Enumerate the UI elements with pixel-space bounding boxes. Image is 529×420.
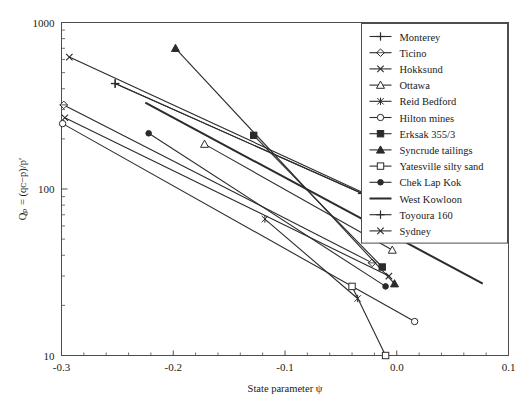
legend-label: Hokksund (400, 64, 444, 75)
x-tick-label: -0.3 (53, 361, 71, 373)
legend-marker (377, 163, 383, 169)
series-toyoura-160 (111, 79, 366, 197)
series-marker (171, 44, 179, 51)
legend-label: Monterey (400, 32, 442, 43)
series-reid-bedford (262, 215, 361, 302)
y-tick-label: 100 (38, 183, 55, 195)
series-line (352, 286, 386, 355)
legend-label: Yatesville silty sand (400, 161, 485, 172)
series-marker (379, 264, 385, 270)
series-line (65, 118, 389, 276)
series-line (115, 84, 362, 194)
x-tick-label: 0.1 (502, 361, 516, 373)
legend-label: Hilton mines (400, 113, 455, 124)
series-marker (59, 120, 65, 126)
legend-label: Ottawa (400, 80, 431, 91)
legend-label: Reid Bedford (400, 96, 458, 107)
chart-figure: MontereyTicinoHokksundOttawaReid Bedford… (0, 0, 529, 420)
legend-label: Sydney (400, 226, 432, 237)
legend-marker (377, 131, 383, 137)
x-tick-label: -0.1 (276, 361, 293, 373)
series-line (64, 105, 372, 263)
series-marker (411, 318, 417, 324)
y-tick-label: 1000 (33, 17, 56, 29)
legend-label: West Kowloon (400, 194, 463, 205)
legend-label: Ticino (400, 48, 427, 59)
legend-label: Toyoura 160 (400, 210, 453, 221)
legend-label: Erksak 355/3 (400, 129, 456, 140)
series-marker (349, 283, 355, 289)
chart-svg: MontereyTicinoHokksundOttawaReid Bedford… (0, 0, 529, 420)
series-marker (146, 131, 152, 137)
y-axis-title: Qₚ = (qᴄ−p)/p′ (17, 158, 29, 221)
x-axis-title: State parameter ψ (248, 383, 323, 394)
legend-layer: MontereyTicinoHokksundOttawaReid Bedford… (362, 24, 508, 244)
series-marker (201, 140, 209, 147)
series-yatesville-silty-sand (349, 283, 389, 358)
x-tick-label: -0.2 (165, 361, 182, 373)
legend-marker (377, 114, 383, 120)
series-chek-lap-kok (146, 131, 389, 290)
series-line (69, 57, 366, 194)
series-hokksund (62, 115, 392, 280)
series-marker (383, 284, 389, 290)
series-sydney (66, 54, 370, 198)
series-marker (388, 246, 396, 253)
y-tick-label: 10 (44, 350, 56, 362)
legend-marker (378, 180, 384, 186)
legend-label: Chek Lap Kok (400, 177, 463, 188)
legend-label: Syncrude tailings (400, 145, 473, 156)
series-marker (382, 352, 388, 358)
x-tick-label: 0.0 (390, 361, 404, 373)
series-line (149, 133, 386, 286)
